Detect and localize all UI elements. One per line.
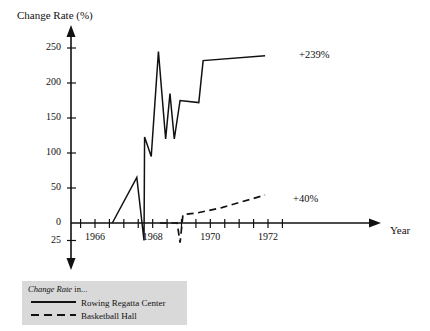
y-axis-tick-label: 0 [0,216,61,227]
y-axis-tick-label: 250 [0,41,61,52]
y-axis-arrow-down-icon [67,258,76,270]
x-axis-tick-label: 1966 [78,231,112,242]
y-axis-tick-label: 200 [0,76,61,87]
series-line-rowing-regatta-center [112,52,265,241]
legend-title: Change Rate in... [28,284,87,294]
y-axis-tick-label: 50 [0,181,61,192]
legend-item-label-rowing-regatta-center: Rowing Regatta Center [81,298,165,308]
x-axis-tick-label: 1970 [193,231,227,242]
x-axis-tick-label: 1968 [136,231,170,242]
y-axis-tick-label: 150 [0,111,61,122]
legend-title-italic: Change Rate [28,284,72,294]
x-axis-tick-label: 1972 [251,231,285,242]
y-axis-tick-label: 25 [0,234,61,245]
y-axis-tick-label: 100 [0,146,61,157]
legend-item-label-basketball-hall: Basketball Hall [81,311,137,321]
legend-title-plain: in... [72,284,87,294]
y-axis-arrow-up-icon [67,25,76,37]
chart-container: Change Rate (%) Year +239% +40% 25020015… [0,0,430,331]
x-axis-arrow-right-icon [369,219,381,228]
